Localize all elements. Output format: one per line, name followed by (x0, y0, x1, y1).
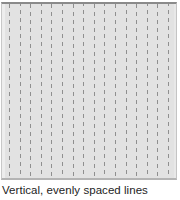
vertical-lines-group (2, 4, 176, 178)
pattern-figure: Vertical, evenly spaced lines (0, 0, 180, 200)
vertical-line (30, 2, 31, 180)
vertical-line (62, 2, 63, 180)
vertical-line (147, 2, 148, 180)
vertical-line (20, 2, 21, 180)
vertical-line (115, 2, 116, 180)
vertical-line (104, 2, 105, 180)
vertical-line (51, 2, 52, 180)
figure-caption: Vertical, evenly spaced lines (2, 183, 180, 198)
vertical-line (168, 2, 169, 180)
vertical-line (83, 2, 84, 180)
vertical-line (136, 2, 137, 180)
vertical-line (157, 2, 158, 180)
vertical-line (126, 2, 127, 180)
vertical-line (9, 2, 10, 180)
pattern-swatch (1, 2, 177, 180)
vertical-line (73, 2, 74, 180)
vertical-line (94, 2, 95, 180)
vertical-line (41, 2, 42, 180)
